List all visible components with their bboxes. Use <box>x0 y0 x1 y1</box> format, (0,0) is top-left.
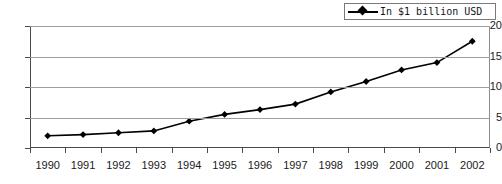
y-axis-tick-label: 10 <box>480 81 502 92</box>
y-axis-tick-label: 20 <box>480 20 502 31</box>
legend-series-swatch <box>348 6 378 17</box>
data-point-marker[interactable] <box>150 128 157 135</box>
data-point-marker[interactable] <box>186 118 193 125</box>
data-point-marker[interactable] <box>363 78 370 85</box>
x-axis-tick-mark <box>455 148 456 153</box>
chart-legend[interactable]: In $1 billion USD <box>344 3 496 20</box>
y-axis-tick-label: 5 <box>480 112 502 123</box>
data-point-marker[interactable] <box>292 101 299 108</box>
x-axis-tick-mark <box>348 148 349 153</box>
data-point-marker[interactable] <box>80 131 87 138</box>
data-point-marker[interactable] <box>327 88 334 95</box>
x-axis-tick-label: 1998 <box>314 159 348 171</box>
x-axis-tick-label: 1993 <box>137 159 171 171</box>
x-axis-tick-mark <box>101 148 102 153</box>
y-axis-tick-label: 0 <box>480 142 502 153</box>
plot-area <box>30 26 490 148</box>
diamond-marker-icon <box>358 6 368 16</box>
gridline <box>30 118 490 119</box>
x-axis-tick-label: 1990 <box>31 159 65 171</box>
series-line <box>48 41 473 136</box>
y-axis-tick-mark <box>25 118 30 119</box>
y-axis-tick-mark <box>25 87 30 88</box>
line-chart: In $1 billion USD 0510152019901991199219… <box>0 0 502 184</box>
x-axis-tick-mark <box>242 148 243 153</box>
y-axis-tick-mark <box>25 26 30 27</box>
x-axis-tick-label: 1992 <box>101 159 135 171</box>
x-axis-tick-label: 1997 <box>278 159 312 171</box>
y-axis-tick-label: 15 <box>480 51 502 62</box>
gridline <box>30 57 490 58</box>
x-axis-tick-mark <box>30 148 31 153</box>
x-axis-tick-label: 1996 <box>243 159 277 171</box>
x-axis-tick-mark <box>136 148 137 153</box>
y-axis <box>0 0 24 184</box>
data-point-marker[interactable] <box>434 59 441 66</box>
x-axis-tick-mark <box>384 148 385 153</box>
x-axis-tick-mark <box>313 148 314 153</box>
gridline <box>30 26 490 27</box>
x-axis-tick-label: 2002 <box>455 159 489 171</box>
legend-series-label: In $1 billion USD <box>378 6 482 17</box>
x-axis-tick-mark <box>419 148 420 153</box>
data-point-marker[interactable] <box>44 132 51 139</box>
gridline <box>30 87 490 88</box>
x-axis-tick-label: 1995 <box>208 159 242 171</box>
x-axis-tick-mark <box>490 148 491 153</box>
data-point-marker[interactable] <box>398 67 405 74</box>
x-axis-tick-label: 1991 <box>66 159 100 171</box>
x-axis-tick-mark <box>278 148 279 153</box>
x-axis-tick-label: 1999 <box>349 159 383 171</box>
x-axis-tick-mark <box>207 148 208 153</box>
x-axis-tick-mark <box>65 148 66 153</box>
x-axis-tick-label: 1994 <box>172 159 206 171</box>
x-axis-tick-label: 2001 <box>420 159 454 171</box>
x-axis-tick-mark <box>172 148 173 153</box>
data-point-marker[interactable] <box>257 106 264 113</box>
data-point-marker[interactable] <box>115 129 122 136</box>
x-axis-tick-label: 2000 <box>385 159 419 171</box>
y-axis-tick-mark <box>25 57 30 58</box>
